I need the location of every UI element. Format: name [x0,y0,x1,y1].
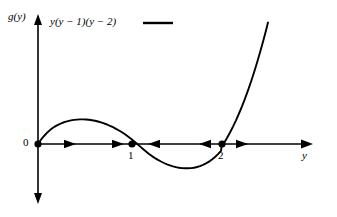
horizontal-axis-label: y [302,150,307,161]
tick-label-0: 0 [23,137,29,148]
cubic-curve [38,23,268,169]
equilibrium-dot-1 [128,140,135,147]
graph-canvas [0,0,337,217]
horizontal-axis-arrow-right [301,140,313,149]
vertical-axis-arrow-up [34,14,42,25]
phase-arrow-left-1 [148,140,160,148]
tick-label-1: 1 [128,150,134,161]
equilibrium-dot-0 [34,140,41,147]
horizontal-axis [38,140,313,149]
tick-label-2: 2 [218,150,224,161]
phase-arrow-left-2 [199,140,211,148]
phase-arrow-right-1 [64,140,76,148]
phase-line-figure: g(y) y y(y − 1)(y − 2) 0 1 2 [0,0,337,217]
vertical-axis-arrow-down [34,193,42,204]
vertical-axis [34,14,42,204]
vertical-axis-label: g(y) [8,11,26,22]
equilibrium-dot-2 [218,140,225,147]
legend-entry-label: y(y − 1)(y − 2) [50,16,116,27]
phase-arrow-right-2 [112,140,124,148]
phase-arrow-right-3 [236,140,248,148]
